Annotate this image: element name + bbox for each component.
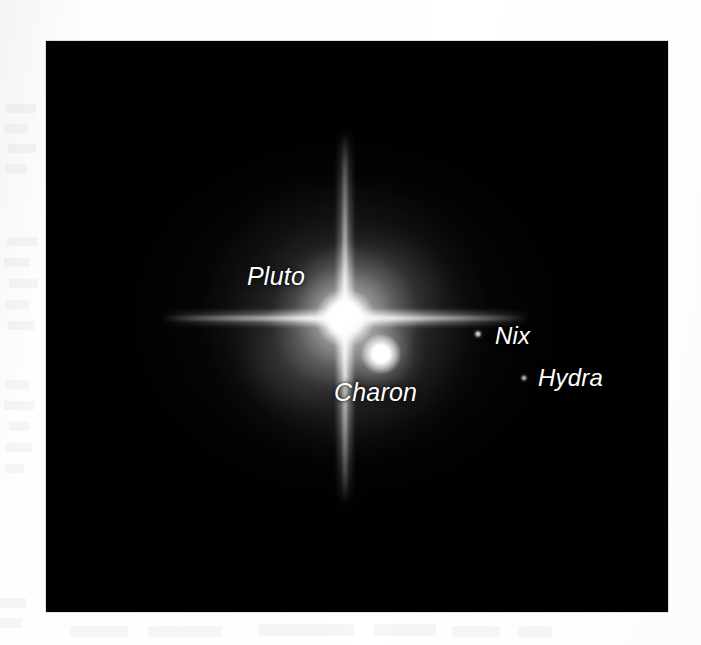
- page-ghost-mark: [4, 401, 34, 410]
- page-ghost-mark: [518, 626, 552, 637]
- page-ghost-mark: [258, 624, 354, 636]
- page-ghost-mark: [8, 321, 35, 330]
- page-ghost-mark: [452, 626, 500, 637]
- page-ghost-mark: [6, 443, 32, 452]
- page-ghost-mark: [8, 144, 36, 153]
- page-ghost-mark: [9, 422, 30, 431]
- page-ghost-mark: [0, 598, 26, 608]
- page-ghost-mark: [70, 626, 128, 637]
- page-ghost-mark: [5, 464, 24, 473]
- page-ghost-mark: [4, 258, 30, 267]
- scanned-page-background: Pluto Charon Nix Hydra: [0, 0, 701, 645]
- page-ghost-mark: [7, 237, 38, 246]
- page-ghost-mark: [6, 380, 29, 389]
- page-ghost-mark: [5, 300, 29, 309]
- page-ghost-mark: [148, 626, 222, 637]
- page-ghost-mark: [5, 164, 27, 173]
- pluto-system-image: [46, 41, 668, 612]
- page-ghost-mark: [6, 104, 36, 113]
- page-ghost-mark: [374, 624, 436, 636]
- image-field-noise: [46, 41, 668, 612]
- page-ghost-mark: [4, 124, 28, 133]
- page-ghost-mark: [9, 279, 38, 288]
- page-ghost-mark: [0, 618, 22, 628]
